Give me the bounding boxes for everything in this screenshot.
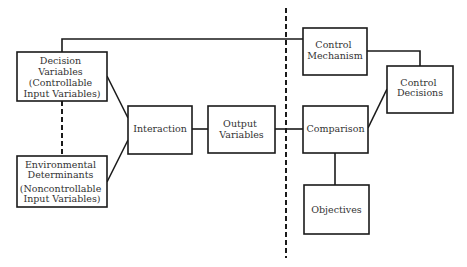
label-line: Output <box>223 118 257 129</box>
label-line: Objectives <box>311 204 362 215</box>
label-line: Control <box>315 39 351 50</box>
label-interaction: Interaction <box>133 123 187 134</box>
edge-control-mechanism-to-control-decisions <box>367 51 420 66</box>
edge-environmental-to-interaction <box>107 140 128 182</box>
edge-decision-to-interaction <box>107 76 128 118</box>
label-line: Variables <box>37 66 83 77</box>
label-comparison: Comparison <box>306 123 364 134</box>
label-objectives: Objectives <box>311 204 362 215</box>
label-line: Input Variables) <box>23 88 100 99</box>
edge-comparison-to-control-decisions <box>368 89 387 128</box>
edge-decision-to-control-mechanism <box>62 39 303 52</box>
label-line: Input Variables) <box>23 193 100 204</box>
label-line: Determinants <box>28 169 94 180</box>
system-block-diagram: Decision Variables (Controllable Input V… <box>0 0 467 267</box>
label-control-decisions: Control Decisions <box>397 77 443 98</box>
label-line: Decisions <box>397 87 443 98</box>
label-line: Variables <box>218 129 264 140</box>
label-control-mechanism: Control Mechanism <box>307 39 363 61</box>
label-line: Interaction <box>133 123 187 134</box>
label-line: (Controllable <box>29 77 93 88</box>
label-line: Decision <box>40 55 81 66</box>
label-line: Comparison <box>306 123 364 134</box>
label-output-variables: Output Variables <box>218 118 264 140</box>
label-line: Mechanism <box>307 50 363 61</box>
